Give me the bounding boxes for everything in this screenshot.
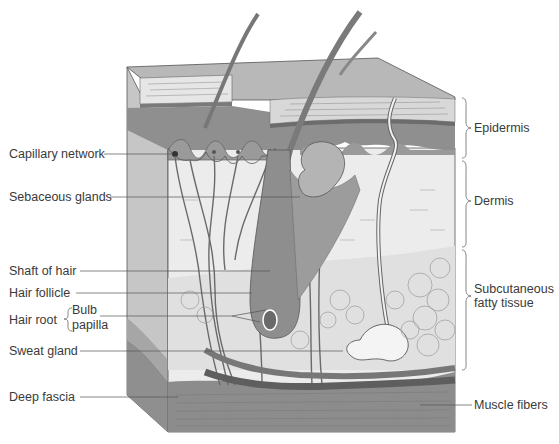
epidermis-brace (462, 98, 471, 158)
hair-bulb-papilla (263, 310, 277, 330)
label-deep-fascia: Deep fascia (9, 390, 75, 404)
subcutaneous-brace (462, 250, 471, 370)
label-sebaceous-glands: Sebaceous glands (9, 190, 112, 204)
label-capillary-network: Capillary network (9, 147, 105, 161)
hair-root-brace (64, 308, 72, 331)
label-papilla: papilla (72, 318, 108, 332)
label-fatty-tissue: fatty tissue (474, 296, 534, 310)
label-hair-follicle: Hair follicle (9, 286, 70, 300)
label-dermis: Dermis (474, 194, 514, 208)
label-sweat-gland: Sweat gland (9, 344, 78, 358)
label-epidermis: Epidermis (474, 121, 530, 135)
label-subcutaneous: Subcutaneous (474, 282, 554, 296)
dermis-brace (462, 161, 471, 247)
label-bulb: Bulb (72, 303, 97, 317)
skin-cross-section-diagram (0, 0, 559, 444)
label-muscle-fibers: Muscle fibers (474, 398, 548, 412)
label-hair-root: Hair root (9, 313, 57, 327)
label-shaft-of-hair: Shaft of hair (9, 264, 76, 278)
